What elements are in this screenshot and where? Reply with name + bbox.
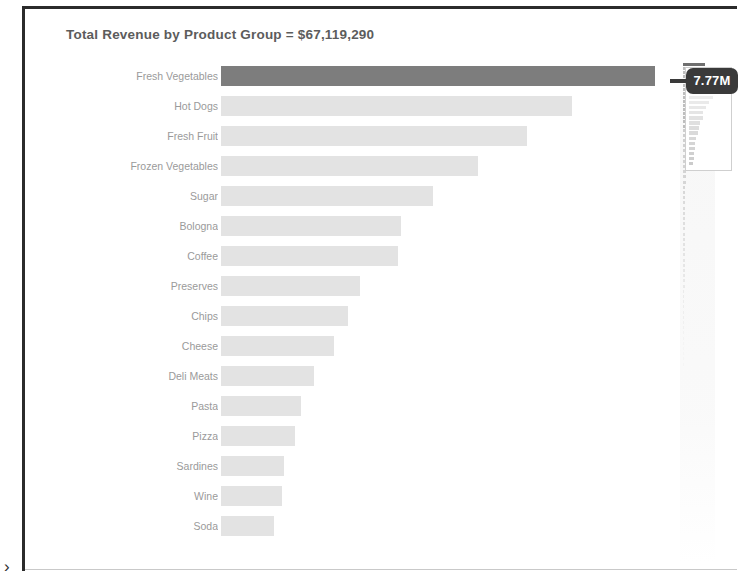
bar-row[interactable]: Sardines [25,451,740,481]
bar-row[interactable]: Cheese [25,331,740,361]
bar-highlighted[interactable] [221,66,655,86]
bar-track [221,121,740,151]
minimap-tail-mark [683,321,684,324]
minimap-tail-tick [682,191,708,195]
bar[interactable] [221,306,348,326]
bar-track [221,271,740,301]
bar-row[interactable]: Pasta [25,391,740,421]
bar-track [221,211,740,241]
bar-row[interactable]: Preserves [25,271,740,301]
minimap-tail-mark [683,342,684,345]
minimap-tail-tick [682,337,708,341]
value-tooltip[interactable]: 7.77M [686,68,738,94]
minimap-tail-mark [683,290,684,293]
bar[interactable] [221,276,360,296]
minimap-tail-tick [682,264,708,268]
bar-row[interactable]: Deli Meats [25,361,740,391]
minimap-tail-tick [682,269,708,273]
bar-category-label: Chips [25,301,218,331]
minimap-tail-mark [683,285,685,288]
minimap-tail-mark [683,207,685,210]
bar-track [221,91,740,121]
minimap-tail-mark [683,217,685,220]
bar-row[interactable]: Soda [25,511,740,541]
popup-bar [689,101,709,104]
bar[interactable] [221,186,433,206]
bar-row[interactable]: Frozen Vegetables [25,151,740,181]
minimap-bar [683,63,705,66]
bar-track [221,361,740,391]
bar-row[interactable]: Bologna [25,211,740,241]
minimap-tail-mark [683,264,685,267]
bar-category-label: Bologna [25,211,218,241]
minimap-tail-tick [682,363,708,367]
minimap-tail-tick [682,175,708,179]
minimap-tail-tick [682,326,708,330]
minimap-tail-tick [682,311,708,315]
minimap-tail-mark [683,259,685,262]
bar-row[interactable]: Fresh Vegetables [25,61,740,91]
bar[interactable] [221,336,334,356]
popup-bar [689,96,713,99]
minimap-tail-mark [683,331,684,334]
minimap-tail-tick [682,207,708,211]
bar-row[interactable]: Hot Dogs [25,91,740,121]
bar-track [221,301,740,331]
minimap-tail-tick [682,342,708,346]
bar-category-label: Sardines [25,451,218,481]
minimap-tail-mark [683,352,684,355]
bar[interactable] [221,396,301,416]
bar-category-label: Pizza [25,421,218,451]
minimap-tail-tick [682,201,708,205]
bar[interactable] [221,96,572,116]
minimap-tail-mark [683,233,685,236]
popup-bar [689,147,695,150]
minimap-tail-mark [683,222,685,225]
popup-bar [689,121,700,124]
bar-row[interactable]: Wine [25,481,740,511]
bar-track [221,511,740,541]
bar[interactable] [221,126,527,146]
minimap-tail-mark [683,191,685,194]
bar[interactable] [221,246,398,266]
bar[interactable] [221,156,478,176]
bar-chart-plot-area: Fresh VegetablesHot DogsFresh FruitFroze… [25,61,740,561]
bar-row[interactable]: Fresh Fruit [25,121,740,151]
bar-row[interactable]: Sugar [25,181,740,211]
minimap-tail-mark [683,181,686,184]
minimap-tail-mark [683,243,685,246]
bar-category-label: Preserves [25,271,218,301]
minimap-tail-tick [682,357,708,361]
bar[interactable] [221,486,282,506]
minimap-tail-mark [683,201,685,204]
pan-right-chevron-icon[interactable]: › [4,556,22,578]
bar-category-label: Pasta [25,391,218,421]
minimap-tail-tick [682,300,708,304]
bar-track [221,421,740,451]
minimap-tail-mark [683,337,684,340]
bar-row[interactable]: Chips [25,301,740,331]
minimap-tail-tick [682,331,708,335]
bar-category-label: Soda [25,511,218,541]
minimap-tail-tick [682,259,708,263]
minimap-tail-mark [683,316,684,319]
minimap-tail-mark [683,305,684,308]
bar[interactable] [221,516,274,536]
popup-bar [689,116,703,119]
bar[interactable] [221,426,295,446]
minimap-tail-tick [682,321,708,325]
page-title: Total Revenue by Product Group = $67,119… [66,27,374,42]
bar[interactable] [221,456,284,476]
bar-track [221,241,740,271]
bar-category-label: Coffee [25,241,218,271]
minimap-tail-tick [682,347,708,351]
minimap-tail-mark [683,274,685,277]
minimap-tail-tick [682,196,708,200]
bar-row[interactable]: Coffee [25,241,740,271]
minimap-tail-tick [682,227,708,231]
bar[interactable] [221,366,314,386]
bar-category-label: Fresh Vegetables [25,61,218,91]
bar-row[interactable]: Pizza [25,421,740,451]
bar-track [221,61,740,91]
bar[interactable] [221,216,401,236]
